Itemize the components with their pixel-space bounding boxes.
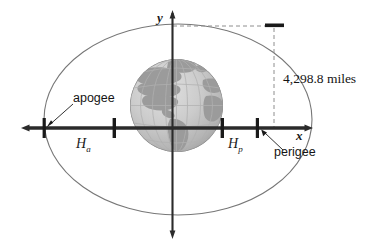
perigee-label: perigee [274,146,316,159]
diagram-canvas [0,0,368,249]
tick-perigee [256,118,259,138]
earth-globe [130,59,224,152]
tick-apogee [43,118,46,138]
apogee-altitude-label: Ha [76,137,91,154]
y-axis-arrow-up [170,10,176,19]
perigee-altitude-subscript: p [238,144,243,154]
x-axis-arrow-left [21,124,30,131]
dimension-label: 4,298.8 miles [283,72,356,86]
apogee-altitude-subscript: a [86,144,91,154]
apogee-label: apogee [73,92,115,105]
orbit-diagram-figure: y x apogee perigee Ha Hp 4,298.8 miles [0,0,368,249]
tick-earth-left [113,118,116,138]
y-axis-label: y [157,11,163,24]
satellite-marker [265,24,284,28]
perigee-altitude-symbol: H [228,136,238,151]
apogee-altitude-symbol: H [76,136,86,151]
apogee-leader [47,104,74,128]
perigee-altitude-label: Hp [228,137,243,154]
tick-earth-right [221,118,224,138]
y-axis-arrow-down [170,231,176,240]
x-axis-label: x [296,129,303,142]
